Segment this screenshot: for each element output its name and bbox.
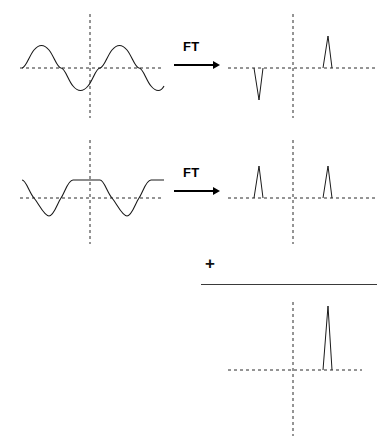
arrow-head bbox=[213, 61, 220, 69]
spectrum-peak-sum-up bbox=[323, 306, 332, 370]
spectrum-peak-positive-up bbox=[323, 166, 332, 198]
ft-label-row1: FT bbox=[183, 40, 199, 53]
ft-arrow-row2 bbox=[172, 182, 222, 200]
panel-sum-spectrum bbox=[226, 296, 378, 438]
panel-sine-spectrum bbox=[226, 10, 378, 122]
spectrum-peak-positive-up bbox=[323, 36, 332, 68]
spectrum-peak-negative-down bbox=[254, 68, 263, 100]
ft-arrow-row1 bbox=[172, 56, 222, 74]
plus-sign: + bbox=[205, 255, 215, 272]
panel-sine-wave bbox=[12, 10, 172, 122]
fourier-transform-figure: FT FT bbox=[0, 0, 385, 441]
panel-cosine-spectrum bbox=[226, 136, 378, 248]
sum-horizontal-rule bbox=[201, 284, 377, 285]
spectrum-peak-negative-up bbox=[254, 166, 263, 198]
ft-label-row2: FT bbox=[183, 166, 199, 179]
arrow-head bbox=[213, 187, 220, 195]
panel-cosine-wave bbox=[12, 136, 172, 248]
